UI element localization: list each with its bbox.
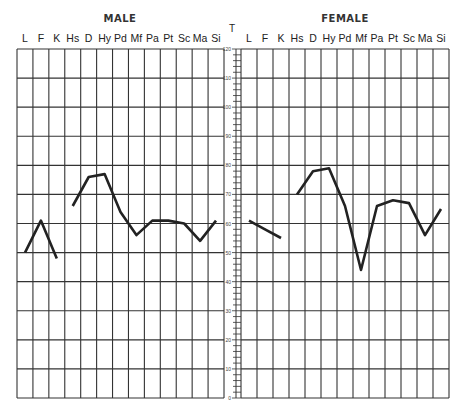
female-scale-label-si: Si [436, 32, 445, 44]
female-scale-label-mf: Mf [355, 32, 367, 44]
female-scale-label-hs: Hs [291, 32, 304, 44]
tick-label-60: 60 [225, 221, 231, 227]
tick-label-90: 90 [225, 133, 231, 139]
mmpi-profile-chart: MALE FEMALE T LFKHsDHyPdMfPaPtScMaSi LFK… [0, 0, 461, 412]
tick-label-80: 80 [225, 162, 231, 168]
tick-label-70: 70 [225, 191, 231, 197]
male-scale-label-pd: Pd [114, 32, 127, 44]
tick-label-110: 110 [223, 75, 231, 81]
male-scale-label-pa: Pa [146, 32, 159, 44]
male-scale-label-hy: Hy [98, 32, 112, 44]
t-axis-label: T [229, 23, 235, 34]
male-scale-label-hs: Hs [66, 32, 79, 44]
male-scale-label-ma: Ma [193, 32, 208, 44]
male-scale-label-l: L [22, 32, 28, 44]
tick-label-50: 50 [225, 250, 231, 256]
male-scale-label-sc: Sc [178, 32, 190, 44]
male-scale-label-pt: Pt [163, 32, 173, 44]
female-scale-label-pa: Pa [371, 32, 384, 44]
female-scale-label-k: K [277, 32, 284, 44]
male-panel-title: MALE [104, 13, 137, 24]
male-scale-label-si: Si [211, 32, 220, 44]
female-scale-label-ma: Ma [418, 32, 433, 44]
female-profile-line [249, 168, 441, 270]
female-scale-label-sc: Sc [403, 32, 415, 44]
male-scale-label-mf: Mf [131, 32, 143, 44]
male-profile-line [25, 174, 216, 258]
male-grid: LFKHsDHyPdMfPaPtScMaSi [17, 32, 224, 398]
t-score-scale: 0102030405060708090100110120 [223, 46, 241, 401]
female-scale-label-pt: Pt [388, 32, 398, 44]
male-scale-label-k: K [53, 32, 60, 44]
tick-label-20: 20 [225, 337, 231, 343]
tick-label-120: 120 [223, 46, 232, 52]
female-scale-label-f: F [262, 32, 268, 44]
female-grid: LFKHsDHyPdMfPaPtScMaSi [241, 32, 449, 398]
tick-label-0: 0 [228, 395, 231, 401]
tick-label-10: 10 [225, 366, 231, 372]
female-scale-label-l: L [246, 32, 252, 44]
tick-label-40: 40 [225, 279, 231, 285]
male-scale-label-d: D [85, 32, 93, 44]
female-scale-label-hy: Hy [323, 32, 337, 44]
tick-label-30: 30 [225, 308, 231, 314]
male-scale-label-f: F [38, 32, 44, 44]
female-scale-label-d: D [309, 32, 317, 44]
female-scale-label-pd: Pd [339, 32, 352, 44]
tick-label-100: 100 [223, 104, 232, 110]
female-panel-title: FEMALE [321, 13, 369, 24]
